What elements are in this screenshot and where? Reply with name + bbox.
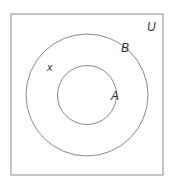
venn-diagram: U B A x	[0, 0, 178, 178]
set-a-label: A	[110, 89, 119, 103]
universe-label: U	[147, 20, 156, 34]
set-b-label: B	[121, 41, 129, 55]
set-b-circle	[26, 34, 148, 156]
set-a-circle	[58, 66, 117, 125]
element-x-label: x	[46, 61, 53, 73]
universe-rectangle	[11, 14, 163, 175]
